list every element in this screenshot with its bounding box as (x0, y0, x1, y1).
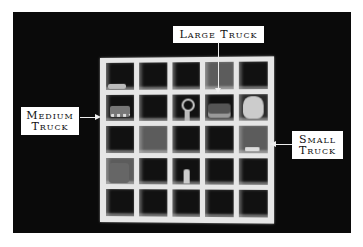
toy-box (108, 83, 126, 88)
cubby-cell (205, 126, 234, 153)
plush-toy (243, 96, 264, 118)
arrow-small-truck-head (270, 141, 276, 147)
jar (109, 163, 129, 183)
shelf-grid (106, 61, 268, 217)
cubby-cell (239, 190, 268, 217)
label-small-line2: Truck (296, 145, 339, 156)
small-truck-toy (245, 147, 259, 151)
cubby-cell (106, 63, 134, 90)
label-small-truck: Small Truck (292, 131, 343, 159)
label-medium-truck: Medium Truck (21, 107, 79, 135)
cubby-cell (172, 62, 200, 89)
cubby-cell (205, 190, 234, 217)
cubby-cell (106, 126, 134, 153)
cubby-cell (139, 94, 167, 121)
bottle (183, 170, 189, 184)
arrow-small-truck-line (276, 144, 292, 145)
cubby-cell (106, 189, 134, 216)
cubby-cell (172, 94, 200, 121)
arrow-large-truck-line (218, 42, 219, 90)
large-truck-toy (208, 104, 231, 118)
cubby-cell (139, 190, 167, 217)
label-large-truck: Large Truck (173, 26, 264, 43)
cubby-cell (205, 62, 234, 89)
cubby-cell (172, 190, 200, 217)
cubby-cell (172, 126, 200, 153)
cubby-cell (139, 158, 167, 185)
cubby-cell (139, 62, 167, 89)
toy-figure-base (184, 110, 189, 120)
label-medium-line2: Truck (25, 121, 75, 132)
cubby-cell (139, 126, 167, 153)
cubby-cell-large-truck (205, 94, 234, 121)
cubby-cell (239, 158, 268, 185)
arrow-medium-truck-line (80, 117, 95, 118)
cubby-cell (239, 61, 268, 88)
medium-truck-toy (110, 106, 130, 117)
cubby-cell (205, 158, 234, 185)
cubby-cell (172, 158, 200, 185)
cubby-cell-medium-truck (106, 94, 134, 121)
arrow-large-truck-head (215, 88, 221, 93)
cubby-shelf (100, 56, 274, 223)
cubby-cell-small-truck (239, 126, 268, 153)
cubby-cell (239, 94, 268, 121)
arrow-medium-truck-head (95, 114, 101, 120)
cubby-cell (106, 158, 134, 185)
